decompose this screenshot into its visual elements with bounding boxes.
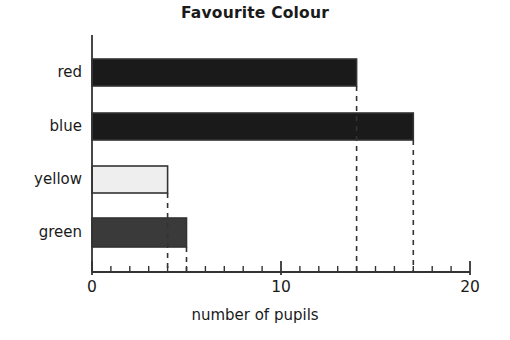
category-label-blue: blue (50, 117, 82, 135)
bars-group (92, 59, 413, 247)
bar-blue (92, 113, 413, 140)
tick-label-10: 10 (251, 278, 311, 296)
category-label-yellow: yellow (34, 170, 82, 188)
tick-label-0: 0 (62, 278, 122, 296)
bar-green (92, 218, 187, 247)
bar-yellow (92, 166, 168, 193)
category-label-red: red (57, 63, 82, 81)
x-axis-title: number of pupils (0, 306, 510, 324)
bar-chart-figure: Favourite Colour redblueyellowgreen 0102… (0, 0, 510, 340)
tick-label-20: 20 (440, 278, 500, 296)
category-label-green: green (39, 223, 82, 241)
bar-red (92, 59, 357, 86)
